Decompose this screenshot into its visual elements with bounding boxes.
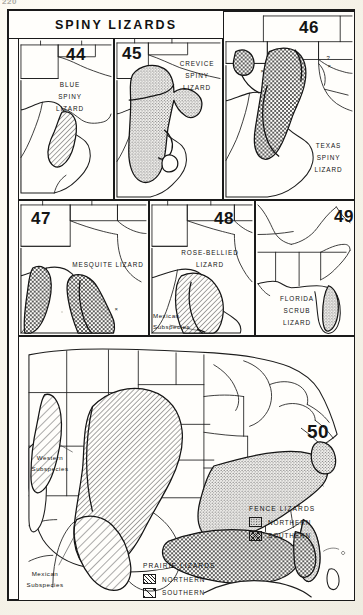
- panel-50-number: 50: [307, 421, 329, 443]
- swatch-diagonal-dense-icon: [143, 574, 156, 584]
- panel-45-number: 45: [122, 44, 142, 64]
- legend-prairie-lizards: PRAIRIE LIZARDS NORTHERN SOUTHERN: [143, 562, 216, 601]
- panel-47: × 47 MESQUITE LIZARD: [18, 200, 149, 336]
- range-disjunct-population: [233, 50, 254, 75]
- legend-prairie-lizards-title: PRAIRIE LIZARDS: [143, 562, 216, 569]
- legend-label: NORTHERN: [268, 519, 311, 526]
- panel-49-number: 49: [334, 207, 354, 227]
- range-mesquite-lizard-east: [67, 275, 115, 333]
- legend-entry: SOUTHERN: [143, 588, 216, 598]
- panel-49-caption: FLORIDA SCRUB LIZARD: [272, 293, 322, 329]
- panel-48-annotation: Mexican Subspecies: [153, 311, 195, 332]
- panel-47-caption: MESQUITE LIZARD: [69, 259, 147, 271]
- panel-48-caption: ROSE-BELLIED LIZARD: [180, 247, 240, 271]
- panel-48-number: 48: [214, 209, 234, 229]
- swatch-crosshatch-icon: [249, 531, 262, 541]
- panel-49: 49 FLORIDA SCRUB LIZARD: [255, 200, 355, 336]
- legend-label: NORTHERN: [162, 576, 205, 583]
- legend-label: SOUTHERN: [268, 532, 311, 539]
- panel-50-annotation-western: Western Subspecies: [27, 453, 73, 474]
- legend-entry: SOUTHERN: [249, 531, 315, 541]
- panel-46-caption: TEXAS SPINY LIZARD: [306, 140, 351, 176]
- legend-entry: NORTHERN: [143, 574, 216, 584]
- panel-46: × × ? 46 TEXAS SPINY LIZARD: [223, 11, 355, 200]
- panel-45-caption: CREVICE SPINY LIZARD: [173, 58, 221, 94]
- panel-44-number: 44: [66, 45, 86, 65]
- panel-46-number: 46: [299, 18, 319, 38]
- scan-speck: [309, 571, 311, 573]
- scan-speck: [327, 441, 329, 443]
- panel-50-annotation-mexican: Mexican Subspecies: [22, 569, 68, 590]
- page-number: 220: [2, 0, 17, 6]
- legend-fence-lizards-title: FENCE LIZARDS: [249, 505, 315, 512]
- scan-speck: [61, 311, 63, 313]
- marker-x-2: ×: [327, 63, 331, 69]
- legend-label: SOUTHERN: [162, 589, 205, 596]
- marker-query: ?: [326, 55, 330, 61]
- swatch-diagonal-sparse-icon: [143, 588, 156, 598]
- legend-entry: NORTHERN: [249, 517, 315, 527]
- plate-frame: SPINY LIZARDS 44 BLUE SPINY LIZARD: [7, 9, 355, 601]
- panel-47-number: 47: [31, 209, 51, 229]
- marker-x-1: ×: [115, 306, 119, 312]
- panel-45: 45 CREVICE SPINY LIZARD: [114, 38, 223, 200]
- range-hole: [162, 155, 178, 172]
- range-fence-lizard-northern-northeast: [311, 442, 335, 474]
- panel-48: 48 ROSE-BELLIED LIZARD Mexican Subspecie…: [149, 200, 255, 336]
- panel-50: 50 Western Subspecies Mexican Subspecies…: [18, 336, 355, 601]
- panel-44-caption: BLUE SPINY LIZARD: [49, 79, 91, 115]
- plate-title: SPINY LIZARDS: [55, 18, 177, 32]
- panel-44: 44 BLUE SPINY LIZARD: [18, 38, 114, 200]
- plate-title-bar: SPINY LIZARDS: [9, 11, 224, 39]
- legend-fence-lizards: FENCE LIZARDS NORTHERN SOUTHERN: [249, 505, 315, 544]
- marker-x-1: ×: [260, 68, 264, 74]
- swatch-stipple-icon: [249, 517, 262, 527]
